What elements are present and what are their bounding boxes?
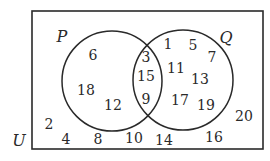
element-6: 6 <box>89 47 98 63</box>
region-p-and-q: 3159 <box>137 49 155 107</box>
element-7: 7 <box>208 49 217 65</box>
element-20: 20 <box>235 108 253 124</box>
element-19: 19 <box>197 97 215 113</box>
element-14: 14 <box>155 132 173 148</box>
element-11: 11 <box>167 60 185 76</box>
element-18: 18 <box>77 82 95 98</box>
element-4: 4 <box>62 131 71 147</box>
element-10: 10 <box>125 130 143 146</box>
element-5: 5 <box>189 37 198 53</box>
element-3: 3 <box>142 49 151 65</box>
universe-label: U <box>12 131 26 150</box>
element-12: 12 <box>104 97 122 113</box>
region-q-only: 15711131719 <box>164 36 217 113</box>
element-9: 9 <box>142 91 151 107</box>
element-2: 2 <box>45 116 54 132</box>
element-17: 17 <box>171 92 189 108</box>
element-13: 13 <box>191 71 209 87</box>
element-8: 8 <box>94 131 103 147</box>
region-p-only: 61812 <box>77 47 122 113</box>
element-16: 16 <box>205 129 223 145</box>
element-15: 15 <box>137 68 155 84</box>
venn-canvas: U P Q 61812 3159 15711131719 24810141620 <box>0 0 270 161</box>
set-q-label: Q <box>219 28 232 47</box>
element-1: 1 <box>164 36 173 52</box>
set-p-label: P <box>56 27 68 46</box>
venn-diagram: U P Q 61812 3159 15711131719 24810141620 <box>0 0 270 161</box>
